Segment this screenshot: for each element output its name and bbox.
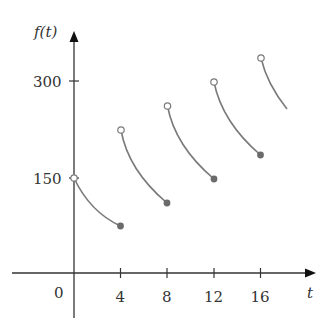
curve-segment-4 <box>214 82 261 155</box>
open-points <box>71 55 264 181</box>
open-point <box>118 127 124 133</box>
curve-segment-2 <box>121 130 167 203</box>
filled-point <box>164 200 171 207</box>
origin-label: 0 <box>54 284 64 302</box>
curve-segment-1 <box>74 178 121 226</box>
filled-point <box>117 223 124 230</box>
y-axis-label: f(t) <box>33 23 57 41</box>
filled-point <box>257 152 264 159</box>
x-tick-8: 8 <box>162 288 172 306</box>
x-tick-12: 12 <box>204 288 223 306</box>
open-point <box>211 79 217 85</box>
open-point <box>164 103 170 109</box>
y-axis-arrow-icon <box>70 31 79 42</box>
filled-point <box>211 176 218 183</box>
filled-points <box>117 152 264 230</box>
x-tick-16: 16 <box>251 288 270 306</box>
x-tick-4: 4 <box>116 288 126 306</box>
x-axis-arrow-icon <box>305 269 316 278</box>
curves <box>74 58 287 226</box>
x-axis-label: t <box>307 284 314 302</box>
curve-segment-3 <box>168 106 215 179</box>
ticks <box>69 81 261 278</box>
y-tick-300: 300 <box>33 73 62 91</box>
open-point <box>71 175 77 181</box>
curve-segment-5 <box>261 58 287 109</box>
open-point <box>258 55 264 61</box>
y-tick-150: 150 <box>33 170 62 188</box>
chart: f(t) t 0 300 150 4 8 12 16 <box>0 0 329 334</box>
